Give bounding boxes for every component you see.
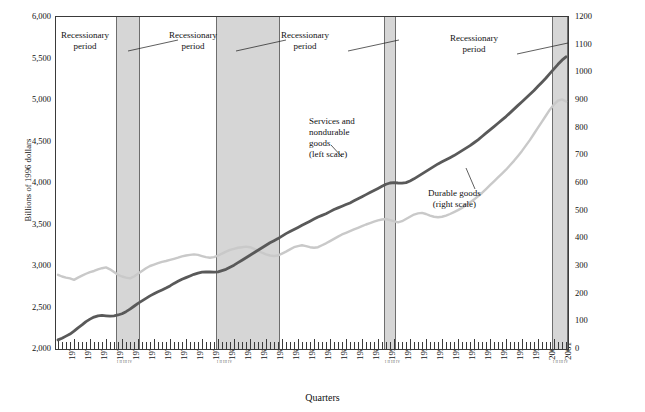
y-tick-left: 6,000 [17, 11, 51, 21]
y-tick-right: 600 [575, 177, 609, 187]
y-tick-right: 0 [575, 343, 609, 353]
series-label-services: Services and nondurable goods (left scal… [309, 116, 355, 160]
y-tick-right: 1100 [575, 39, 609, 49]
y-tick-right: 900 [575, 94, 609, 104]
recession-label-3: Recessionary period [281, 30, 329, 52]
y-tick-left: 2,000 [17, 343, 51, 353]
y-tick-right: 100 [575, 315, 609, 325]
y-tick-left: 5,500 [17, 53, 51, 63]
y-tick-left: 4,000 [17, 177, 51, 187]
band-quarter-microlabel: I II III IV [117, 360, 132, 364]
y-tick-left: 2,500 [17, 302, 51, 312]
chart-figure: Billions of 1996 dollars Billions of 199… [0, 0, 645, 412]
y-tick-right: 300 [575, 260, 609, 270]
x-axis-title: Quarters [0, 392, 645, 403]
y-tick-right: 700 [575, 149, 609, 159]
y-tick-right: 1000 [575, 66, 609, 76]
band-quarter-microlabel: I II III IV [217, 360, 232, 364]
y-tick-right: 800 [575, 122, 609, 132]
y-tick-right: 200 [575, 288, 609, 298]
y-tick-right: 500 [575, 205, 609, 215]
recession-label-4: Recessionary period [450, 33, 498, 55]
plot-area: I II III IVI II III IVI II III IVI II II… [55, 16, 569, 350]
band-quarter-microlabel: I II III IV [553, 360, 568, 364]
y-tick-left: 3,500 [17, 219, 51, 229]
recession-label-2: Recessionary period [169, 30, 217, 52]
annotation-leader-lines [56, 17, 568, 349]
series-label-durable: Durable goods (right scale) [428, 188, 481, 210]
y-tick-left: 5,000 [17, 94, 51, 104]
y-tick-left: 3,000 [17, 260, 51, 270]
y-tick-right: 1200 [575, 11, 609, 21]
band-quarter-microlabel: I II III IV [385, 360, 400, 364]
y-tick-left: 4,500 [17, 136, 51, 146]
y-tick-right: 400 [575, 232, 609, 242]
recession-label-1: Recessionary period [61, 30, 109, 52]
